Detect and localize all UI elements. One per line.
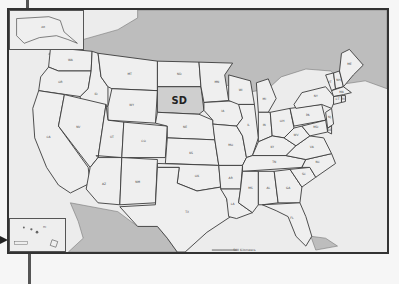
svg-text:LA: LA — [231, 202, 235, 206]
vertical-bar-bottom — [28, 254, 31, 284]
svg-text:RI: RI — [342, 97, 345, 101]
hawaii-inset: HI — [9, 218, 66, 252]
svg-text:IA: IA — [221, 109, 224, 113]
svg-text:NJ: NJ — [328, 115, 331, 119]
svg-text:PA: PA — [306, 113, 310, 117]
svg-text:NV: NV — [76, 125, 80, 129]
svg-text:KY: KY — [270, 145, 274, 149]
svg-text:AK: AK — [41, 25, 45, 29]
hawaii-shape: HI — [10, 219, 65, 251]
state-fl[interactable] — [262, 203, 311, 246]
svg-text:ND: ND — [177, 72, 182, 76]
svg-text:IN: IN — [263, 123, 266, 127]
svg-text:KS: KS — [189, 151, 193, 155]
scale-bar: 500 Kilometers 500 Miles — [212, 248, 256, 252]
svg-text:MN: MN — [214, 80, 219, 84]
svg-text:CA: CA — [47, 135, 51, 139]
svg-text:CO: CO — [141, 139, 146, 143]
svg-text:NC: NC — [316, 160, 320, 164]
svg-text:GA: GA — [286, 186, 290, 190]
svg-text:OH: OH — [280, 119, 285, 123]
svg-text:TX: TX — [184, 210, 189, 214]
svg-text:MO: MO — [228, 143, 234, 147]
svg-text:DE: DE — [328, 128, 332, 132]
svg-text:NY: NY — [314, 94, 318, 98]
svg-text:NM: NM — [135, 180, 140, 184]
svg-text:MI: MI — [263, 98, 267, 102]
svg-text:NE: NE — [183, 125, 187, 129]
svg-text:FL: FL — [290, 216, 294, 220]
svg-text:MT: MT — [128, 72, 133, 76]
svg-text:TN: TN — [271, 160, 276, 164]
svg-text:SC: SC — [302, 172, 306, 176]
svg-text:WY: WY — [129, 103, 134, 107]
map-frame: WA OR CA ID NV MT WY UT CO AZ NM ND SD N… — [7, 8, 389, 254]
svg-text:AZ: AZ — [102, 182, 106, 186]
svg-text:VA: VA — [310, 145, 314, 149]
svg-text:VT: VT — [328, 80, 332, 84]
svg-text:MS: MS — [248, 186, 253, 190]
svg-text:OK: OK — [195, 174, 199, 178]
svg-text:AL: AL — [266, 186, 270, 190]
alaska-inset: AK — [9, 10, 84, 50]
svg-text:MD: MD — [313, 125, 319, 129]
svg-text:UT: UT — [110, 135, 114, 139]
svg-text:MA: MA — [339, 90, 344, 94]
svg-text:ME: ME — [347, 62, 352, 66]
svg-text:IL: IL — [247, 123, 250, 127]
svg-text:SD: SD — [172, 95, 187, 106]
svg-text:AR: AR — [229, 176, 233, 180]
svg-text:WI: WI — [239, 88, 243, 92]
svg-text:HI: HI — [43, 225, 46, 229]
caribbean-islands — [311, 236, 338, 250]
alaska-shape: AK — [10, 11, 83, 49]
svg-text:OR: OR — [58, 80, 62, 84]
svg-text:NH: NH — [336, 78, 340, 82]
svg-text:CT: CT — [336, 98, 340, 102]
svg-text:WV: WV — [293, 133, 298, 137]
svg-text:WA: WA — [68, 58, 73, 62]
